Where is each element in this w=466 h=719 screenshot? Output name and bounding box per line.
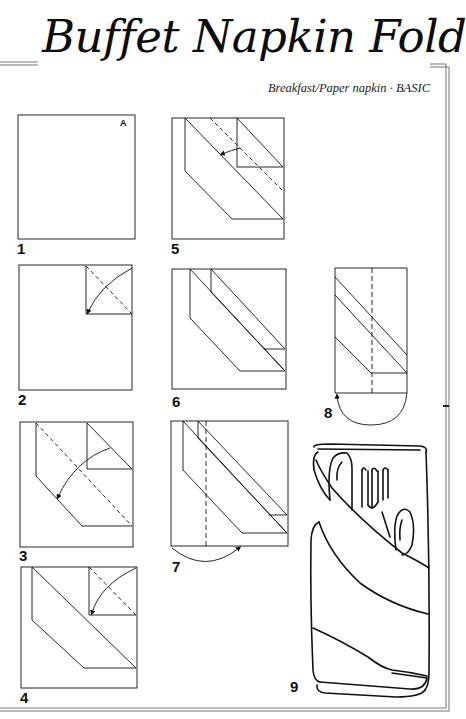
fold-diagrams bbox=[0, 0, 466, 719]
step-1-diagram bbox=[18, 115, 135, 239]
corner-a-label: A bbox=[120, 118, 127, 128]
step-4-diagram bbox=[21, 567, 137, 688]
step-7-diagram bbox=[171, 421, 288, 562]
step-9-diagram bbox=[311, 444, 429, 697]
step-5-number: 5 bbox=[171, 240, 179, 257]
step-9-number: 9 bbox=[290, 678, 298, 695]
step-6-number: 6 bbox=[172, 393, 180, 410]
step-8-diagram bbox=[335, 268, 407, 425]
step-6-diagram bbox=[172, 269, 286, 389]
step-3-diagram bbox=[20, 422, 133, 547]
step-3-number: 3 bbox=[19, 547, 27, 564]
step-5-diagram bbox=[172, 118, 284, 239]
step-4-number: 4 bbox=[20, 689, 28, 706]
step-2-number: 2 bbox=[18, 391, 26, 408]
step-7-number: 7 bbox=[172, 558, 180, 575]
step-8-number: 8 bbox=[324, 404, 332, 421]
step-2-diagram bbox=[19, 265, 132, 390]
step-1-number: 1 bbox=[17, 240, 25, 257]
